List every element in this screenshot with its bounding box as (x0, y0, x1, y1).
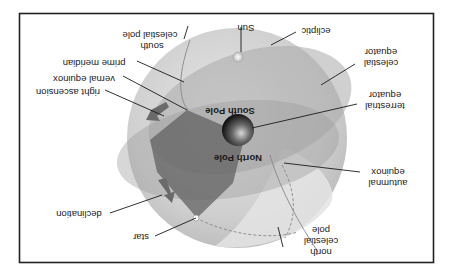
celestial-sphere-diagram: Sun ecliptic celestial equator terrestri… (0, 0, 451, 277)
label-prime-meridian-text: prime meridian (63, 58, 126, 69)
label-celestial-equator-line2: equator (365, 47, 397, 58)
label-right-ascension-text: right ascension (36, 87, 100, 98)
label-sun-text: Sun (238, 23, 255, 34)
label-ecliptic: ecliptic (301, 26, 330, 37)
label-north-pole-text: North Pole (214, 153, 262, 164)
label-north-pole: North Pole (214, 153, 262, 164)
label-south-celestial-pole-line2: celestial pole (123, 30, 178, 41)
label-celestial-equator: celestial equator (364, 47, 398, 69)
label-celestial-equator-line1: celestial (364, 58, 398, 69)
label-autumnal-equinox: autumnal equinox (368, 167, 407, 189)
label-north-celestial-pole-line2: celestial (304, 236, 338, 247)
label-right-ascension: right ascension (36, 87, 100, 98)
earth-icon (222, 114, 254, 146)
label-terrestrial-equator: terrestrial equator (365, 90, 405, 112)
label-autumnal-equinox-line1: autumnal (368, 178, 407, 189)
label-south-pole: South Pole (205, 106, 255, 117)
label-star: star (133, 232, 149, 243)
label-vernal-equinox-text: vernal equinox (53, 74, 115, 85)
label-terrestrial-equator-line2: equator (369, 90, 401, 101)
label-south-celestial-pole-line1: south (140, 41, 163, 52)
label-prime-meridian: prime meridian (63, 58, 126, 69)
sun-icon (233, 52, 243, 62)
label-declination-text: declination (56, 209, 101, 220)
label-vernal-equinox: vernal equinox (53, 74, 115, 85)
label-ecliptic-text: ecliptic (301, 26, 330, 37)
label-declination: declination (56, 209, 101, 220)
label-sun: Sun (238, 23, 255, 34)
label-star-text: star (133, 232, 149, 243)
label-north-celestial-pole-line3: pole (312, 225, 330, 236)
label-autumnal-equinox-line2: equinox (371, 167, 405, 178)
label-north-celestial-pole-line1: north (310, 247, 332, 258)
label-terrestrial-equator-line1: terrestrial (365, 101, 405, 112)
label-south-pole-text: South Pole (205, 106, 255, 117)
